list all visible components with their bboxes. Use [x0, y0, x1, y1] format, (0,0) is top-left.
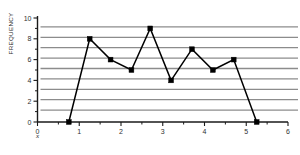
x-tick-label: 2 — [119, 128, 123, 135]
gridlines — [41, 27, 299, 110]
data-point-marker — [190, 47, 195, 52]
data-point-marker — [129, 68, 134, 73]
data-point-marker — [108, 57, 113, 62]
y-tick-label: 0 — [28, 119, 32, 126]
data-point-marker — [66, 120, 71, 125]
x-axis-tick-labels: 0123456 — [36, 128, 291, 135]
chart-plot-area: 0123456 0246810 — [0, 0, 300, 155]
data-point-marker — [148, 26, 153, 31]
frequency-polygon-chart: FREQUENCY x 0123456 0246810 — [0, 0, 300, 155]
data-line — [69, 28, 257, 122]
data-point-marker — [231, 57, 236, 62]
x-tick-label: 1 — [77, 128, 81, 135]
series-polyline — [69, 28, 257, 122]
x-tick-label: 6 — [286, 128, 290, 135]
x-tick-label: 5 — [244, 128, 248, 135]
y-tick-label: 8 — [28, 35, 32, 42]
data-point-marker — [254, 120, 259, 125]
data-point-marker — [210, 68, 215, 73]
y-tick-label: 4 — [28, 77, 32, 84]
y-tick-label: 6 — [28, 56, 32, 63]
x-tick-label: 3 — [161, 128, 165, 135]
y-tick-label: 2 — [28, 98, 32, 105]
y-tick-label: 10 — [24, 15, 32, 22]
x-tick-label: 0 — [36, 128, 40, 135]
y-axis-tick-labels: 0246810 — [24, 15, 32, 126]
data-point-marker — [87, 36, 92, 41]
data-point-marker — [169, 78, 174, 83]
x-tick-label: 4 — [203, 128, 207, 135]
